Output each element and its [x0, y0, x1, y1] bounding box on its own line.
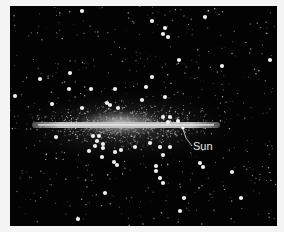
globular-cluster [68, 71, 72, 75]
galaxy-diagram-panel: Sun [10, 6, 277, 226]
globular-cluster [50, 102, 54, 106]
globular-cluster [177, 58, 181, 62]
globular-cluster [201, 165, 205, 169]
globular-cluster [80, 9, 84, 13]
globular-cluster [113, 87, 117, 91]
globular-cluster [220, 64, 224, 68]
globular-cluster [239, 196, 243, 200]
globular-cluster [54, 135, 58, 139]
globular-cluster [168, 115, 172, 119]
globular-cluster [113, 150, 117, 154]
globular-cluster [148, 141, 152, 145]
globular-cluster [112, 160, 116, 164]
globular-cluster [89, 87, 93, 91]
galactic-disk-midplane [38, 124, 214, 125]
globular-cluster [176, 119, 180, 123]
globular-cluster [158, 145, 162, 149]
globular-cluster [100, 155, 104, 159]
globular-cluster [150, 19, 154, 23]
globular-cluster [230, 170, 234, 174]
globular-cluster [38, 77, 42, 81]
globular-cluster [166, 120, 170, 124]
globular-cluster [163, 26, 167, 30]
globular-cluster [154, 169, 158, 173]
globular-cluster [115, 163, 119, 167]
globular-cluster [182, 196, 186, 200]
globular-cluster [91, 134, 95, 138]
globular-cluster [97, 134, 101, 138]
globular-cluster [140, 98, 144, 102]
globular-cluster [101, 142, 105, 146]
globular-cluster [161, 115, 165, 119]
globular-cluster [144, 85, 148, 89]
globular-cluster [161, 32, 165, 36]
globular-cluster [80, 106, 84, 110]
globular-cluster [87, 149, 91, 153]
globular-cluster [166, 35, 170, 39]
globular-cluster [116, 106, 120, 110]
globular-cluster [154, 164, 158, 168]
globular-cluster [178, 209, 182, 213]
globular-cluster [198, 161, 202, 165]
globular-cluster [103, 191, 107, 195]
milky-way-edge-on-diagram: Sun [10, 6, 277, 226]
globular-cluster [95, 139, 99, 143]
globular-cluster [268, 58, 272, 62]
sun-label: Sun [193, 140, 213, 152]
globular-cluster [161, 153, 165, 157]
globular-cluster [150, 75, 154, 79]
globular-cluster [203, 15, 207, 19]
globular-cluster [67, 87, 71, 91]
globular-cluster [161, 181, 165, 185]
globular-cluster [119, 148, 123, 152]
globular-cluster [101, 146, 105, 150]
globular-cluster [13, 94, 17, 98]
globular-cluster [168, 145, 172, 149]
globular-cluster [93, 144, 97, 148]
globular-cluster [158, 176, 162, 180]
globular-cluster [108, 103, 112, 107]
globular-cluster [76, 217, 80, 221]
globular-cluster [133, 145, 137, 149]
globular-cluster [163, 95, 167, 99]
